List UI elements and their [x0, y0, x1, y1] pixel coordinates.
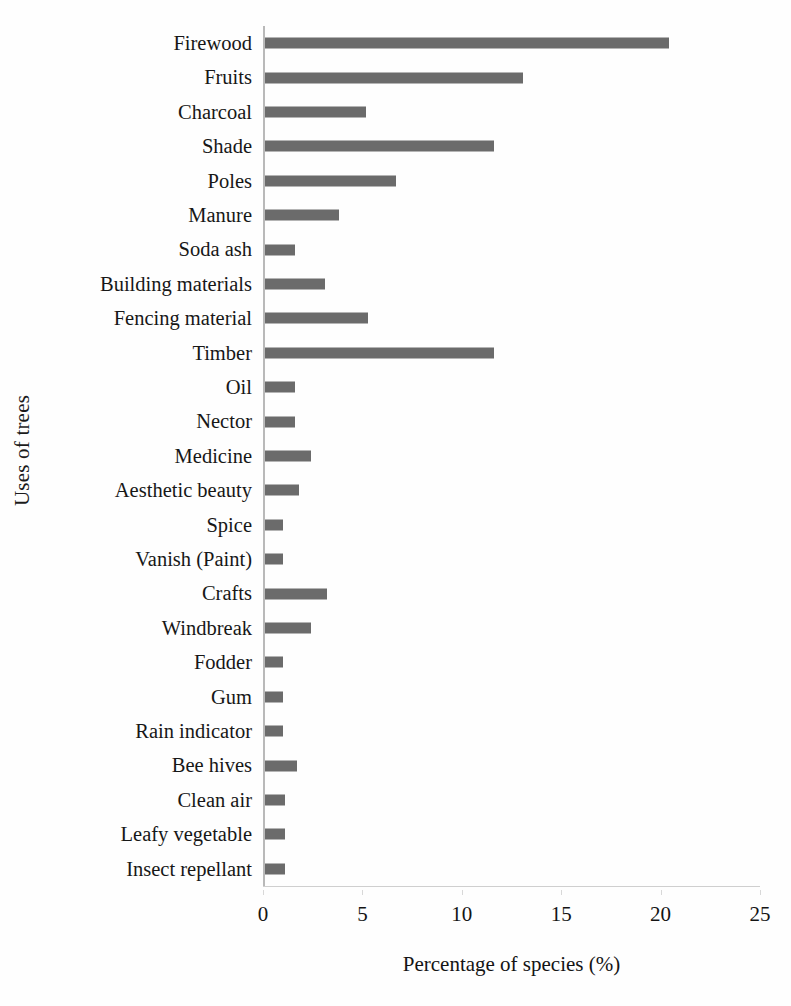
bar-row: Insect repellant — [48, 852, 760, 886]
bar-track — [263, 852, 760, 886]
category-label: Insect repellant — [48, 859, 263, 880]
y-axis-line — [263, 26, 265, 886]
bar-track — [263, 714, 760, 748]
bar-row: Nector — [48, 404, 760, 438]
bar-row: Manure — [48, 198, 760, 232]
bar-row: Shade — [48, 129, 760, 163]
category-label: Leafy vegetable — [48, 824, 263, 845]
category-label: Nector — [48, 411, 263, 432]
bar-row: Oil — [48, 370, 760, 404]
category-label: Oil — [48, 377, 263, 398]
x-axis-title-text: Percentage of species (%) — [403, 952, 620, 977]
category-label: Fodder — [48, 652, 263, 673]
bar-track — [263, 439, 760, 473]
category-label: Vanish (Paint) — [48, 549, 263, 570]
bar-track — [263, 95, 760, 129]
bar — [263, 726, 283, 737]
category-label: Shade — [48, 136, 263, 157]
bar-row: Medicine — [48, 439, 760, 473]
bar — [263, 244, 295, 255]
bar-row: Crafts — [48, 576, 760, 610]
category-label: Gum — [48, 687, 263, 708]
bar-row: Bee hives — [48, 748, 760, 782]
bar-row: Firewood — [48, 26, 760, 60]
bar-row: Aesthetic beauty — [48, 473, 760, 507]
bar-row: Clean air — [48, 783, 760, 817]
bar-track — [263, 576, 760, 610]
category-label: Charcoal — [48, 102, 263, 123]
bar-track — [263, 336, 760, 370]
bar — [263, 691, 283, 702]
category-label: Clean air — [48, 790, 263, 811]
x-axis-line — [263, 886, 760, 887]
x-tick-label: 0 — [258, 904, 269, 925]
bar — [263, 485, 299, 496]
bar-row: Spice — [48, 508, 760, 542]
bar-track — [263, 645, 760, 679]
bar — [263, 175, 396, 186]
y-axis-title-text: Uses of trees — [11, 394, 36, 505]
bar-track — [263, 473, 760, 507]
bar-track — [263, 129, 760, 163]
bar-rows: FirewoodFruitsCharcoalShadePolesManureSo… — [48, 26, 760, 886]
bar-row: Gum — [48, 680, 760, 714]
bar-track — [263, 611, 760, 645]
bar — [263, 141, 494, 152]
x-tick-mark — [661, 890, 662, 895]
bar — [263, 863, 285, 874]
bar — [263, 106, 366, 117]
bar — [263, 450, 311, 461]
x-tick-label: 15 — [551, 904, 572, 925]
category-label: Fruits — [48, 67, 263, 88]
bar — [263, 210, 339, 221]
x-axis-title: Percentage of species (%) — [48, 952, 760, 977]
bar-track — [263, 232, 760, 266]
bar-row: Fodder — [48, 645, 760, 679]
bar-track — [263, 542, 760, 576]
bar-track — [263, 26, 760, 60]
bar-row: Charcoal — [48, 95, 760, 129]
bar — [263, 760, 297, 771]
bar-track — [263, 198, 760, 232]
x-tick-mark — [263, 890, 264, 895]
bar-track — [263, 370, 760, 404]
category-label: Soda ash — [48, 239, 263, 260]
bar-row: Vanish (Paint) — [48, 542, 760, 576]
bar — [263, 829, 285, 840]
bar-track — [263, 60, 760, 94]
bar — [263, 622, 311, 633]
x-tick-label: 25 — [750, 904, 771, 925]
category-label: Firewood — [48, 33, 263, 54]
bar-track — [263, 301, 760, 335]
bar-row: Building materials — [48, 267, 760, 301]
plot-area: FirewoodFruitsCharcoalShadePolesManureSo… — [48, 26, 760, 886]
x-tick-mark — [760, 890, 761, 895]
bar — [263, 416, 295, 427]
y-axis-title: Uses of trees — [0, 0, 46, 900]
bar-track — [263, 404, 760, 438]
bar — [263, 72, 523, 83]
bar-track — [263, 508, 760, 542]
bar-row: Timber — [48, 336, 760, 370]
bar — [263, 347, 494, 358]
category-label: Rain indicator — [48, 721, 263, 742]
bar-track — [263, 680, 760, 714]
bar — [263, 657, 283, 668]
category-label: Aesthetic beauty — [48, 480, 263, 501]
category-label: Bee hives — [48, 755, 263, 776]
category-label: Fencing material — [48, 308, 263, 329]
bar — [263, 519, 283, 530]
bar — [263, 278, 325, 289]
bar — [263, 554, 283, 565]
x-tick-label: 5 — [357, 904, 368, 925]
bar — [263, 794, 285, 805]
bar-track — [263, 748, 760, 782]
category-label: Poles — [48, 171, 263, 192]
x-tick-mark — [462, 890, 463, 895]
bar — [263, 313, 368, 324]
bar-row: Soda ash — [48, 232, 760, 266]
bar-row: Rain indicator — [48, 714, 760, 748]
bar-row: Poles — [48, 164, 760, 198]
bar-track — [263, 783, 760, 817]
category-label: Timber — [48, 343, 263, 364]
